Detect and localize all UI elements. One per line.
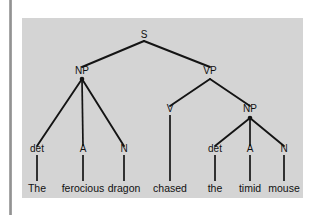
edge-np-object-to-n: [250, 118, 284, 146]
tree-leaf-word-5: the: [208, 182, 223, 194]
parse-tree-canvas: S NP VP V NP det A N det A N The ferocio…: [22, 18, 303, 198]
edge-s-to-vp: [144, 41, 210, 67]
tree-leaf-word-2: ferocious: [62, 182, 105, 194]
edge-np-subject-to-det: [37, 79, 82, 146]
tree-node-a-1: A: [80, 143, 87, 154]
edge-s-to-np-subject: [82, 41, 144, 67]
tree-leaf-word-4: chased: [153, 182, 187, 194]
page-scan-edge-artifact: [9, 0, 12, 215]
tree-node-det-1: det: [30, 143, 44, 154]
tree-leaf-word-1: The: [28, 182, 46, 194]
tree-node-n-2: N: [280, 143, 287, 154]
tree-node-n-1: N: [120, 143, 127, 154]
edge-np-object-to-det: [215, 118, 250, 146]
parse-tree-figure-panel: S NP VP V NP det A N det A N The ferocio…: [22, 18, 303, 198]
tree-node-s: S: [141, 29, 148, 40]
tree-leaf-word-3: dragon: [108, 182, 141, 194]
edge-np-subject-to-a: [82, 79, 83, 146]
tree-leaf-word-6: timid: [239, 182, 261, 194]
edge-np-subject-to-n: [82, 79, 124, 146]
edge-vp-to-v: [170, 79, 210, 106]
tree-leaf-word-7: mouse: [268, 182, 300, 194]
tree-node-a-2: A: [247, 143, 254, 154]
tree-node-np-subject: NP: [75, 65, 89, 76]
tree-node-v: V: [167, 103, 174, 114]
tree-node-det-2: det: [208, 143, 222, 154]
edge-vp-to-np-object: [210, 79, 250, 106]
figure-page: S NP VP V NP det A N det A N The ferocio…: [0, 0, 322, 215]
tree-node-vp: VP: [203, 65, 217, 76]
tree-node-np-object: NP: [243, 103, 257, 114]
